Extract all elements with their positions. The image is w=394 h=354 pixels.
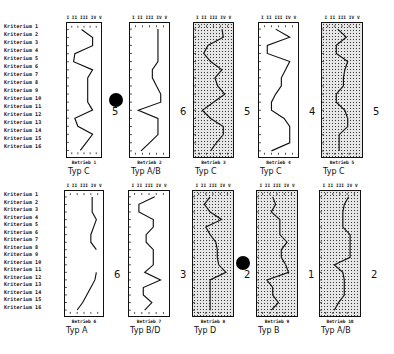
profile-panel	[192, 190, 234, 317]
criterion-label: Kriterium 8	[4, 244, 38, 250]
rank-number: 1	[308, 269, 314, 280]
betrieb-label: Betrieb 8	[192, 319, 234, 324]
betrieb-label: Betrieb 10	[319, 319, 361, 324]
criterion-label: Kriterium 14	[4, 127, 41, 133]
type-label: Typ B	[258, 326, 279, 335]
criterion-label: Kriterium 4	[4, 47, 38, 53]
type-label: Typ A/B	[131, 167, 161, 176]
criterion-label: Kriterium 16	[4, 143, 41, 149]
scale-tick-labels: I II III IV V	[193, 15, 234, 20]
criterion-label: Kriterium 7	[4, 236, 38, 242]
criterion-label: Kriterium 10	[4, 259, 41, 265]
scale-tick-labels: I II III IV V	[256, 183, 298, 188]
criterion-label: Kriterium 5	[4, 55, 38, 61]
betrieb-label: Betrieb 1	[66, 160, 102, 165]
betrieb-label: Betrieb 6	[64, 319, 104, 324]
profile-panel	[128, 190, 170, 317]
profile-panel	[258, 22, 299, 158]
betrieb-label: Betrieb 9	[256, 319, 298, 324]
rank-number: 6	[114, 269, 120, 280]
criterion-label: Kriterium 5	[4, 221, 38, 227]
criterion-label: Kriterium 13	[4, 281, 41, 287]
rank-number: 2	[244, 269, 250, 280]
scale-tick-labels: I II III IV V	[64, 183, 104, 188]
betrieb-label: Betrieb 7	[128, 319, 170, 324]
criterion-label: Kriterium 1	[4, 23, 38, 29]
criterion-label: Kriterium 11	[4, 103, 41, 109]
profile-line	[129, 191, 169, 316]
profile-panel	[129, 22, 170, 158]
criterion-label: Kriterium 16	[4, 304, 41, 310]
profile-line	[257, 191, 297, 316]
type-label: Typ C	[323, 167, 345, 176]
betrieb-label: Betrieb 3	[193, 160, 234, 165]
profile-line	[193, 191, 233, 316]
rank-number: 5	[112, 106, 118, 117]
profile-line	[65, 191, 103, 316]
scale-tick-labels: I II III IV V	[66, 15, 102, 20]
profile-panel	[66, 22, 102, 158]
profile-line	[259, 23, 298, 157]
criterion-label: Kriterium 6	[4, 229, 38, 235]
scale-tick-labels: I II III IV V	[129, 15, 170, 20]
rank-number: 6	[180, 106, 186, 117]
profile-panel	[321, 22, 363, 158]
criterion-label: Kriterium 2	[4, 199, 38, 205]
rank-number: 4	[309, 106, 315, 117]
rank-number: 2	[371, 269, 377, 280]
type-label: Typ C	[260, 167, 282, 176]
criterion-label: Kriterium 8	[4, 79, 38, 85]
criterion-label: Kriterium 3	[4, 39, 38, 45]
criterion-label: Kriterium 12	[4, 111, 41, 117]
profile-line	[320, 191, 360, 316]
criterion-label: Kriterium 9	[4, 87, 38, 93]
profile-line	[130, 23, 169, 157]
rank-number: 3	[180, 269, 186, 280]
betrieb-label: Betrieb 5	[321, 160, 363, 165]
criterion-label: Kriterium 14	[4, 289, 41, 295]
profile-line	[67, 23, 101, 157]
marker-dot	[109, 93, 123, 107]
criterion-label: Kriterium 10	[4, 95, 41, 101]
criterion-label: Kriterium 3	[4, 206, 38, 212]
rank-number: 5	[373, 106, 379, 117]
rank-number: 5	[244, 106, 250, 117]
profile-line	[194, 23, 233, 157]
scale-tick-labels: I II III IV V	[258, 15, 299, 20]
type-label: Typ C	[68, 167, 90, 176]
type-label: Typ B/D	[130, 326, 160, 335]
scale-tick-labels: I II III IV V	[192, 183, 234, 188]
marker-dot	[236, 256, 250, 270]
criterion-label: Kriterium 11	[4, 266, 41, 272]
type-label: Typ A/B	[321, 326, 351, 335]
profile-panel	[193, 22, 234, 158]
profile-panel	[256, 190, 298, 317]
criterion-label: Kriterium 2	[4, 31, 38, 37]
criterion-label: Kriterium 1	[4, 191, 38, 197]
betrieb-label: Betrieb 4	[258, 160, 299, 165]
type-label: Typ C	[195, 167, 217, 176]
criterion-label: Kriterium 12	[4, 274, 41, 280]
criterion-label: Kriterium 7	[4, 71, 38, 77]
criterion-label: Kriterium 6	[4, 63, 38, 69]
scale-tick-labels: I II III IV V	[321, 15, 363, 20]
profile-line	[322, 23, 362, 157]
profile-panel	[319, 190, 361, 317]
type-label: Typ A	[66, 326, 87, 335]
scale-tick-labels: I II III IV V	[319, 183, 361, 188]
criterion-label: Kriterium 15	[4, 296, 41, 302]
criterion-label: Kriterium 9	[4, 251, 38, 257]
scale-tick-labels: I II III IV V	[128, 183, 170, 188]
type-label: Typ D	[194, 326, 216, 335]
betrieb-label: Betrieb 2	[129, 160, 170, 165]
criterion-label: Kriterium 13	[4, 119, 41, 125]
criterion-label: Kriterium 4	[4, 214, 38, 220]
profile-panel	[64, 190, 104, 317]
criterion-label: Kriterium 15	[4, 135, 41, 141]
